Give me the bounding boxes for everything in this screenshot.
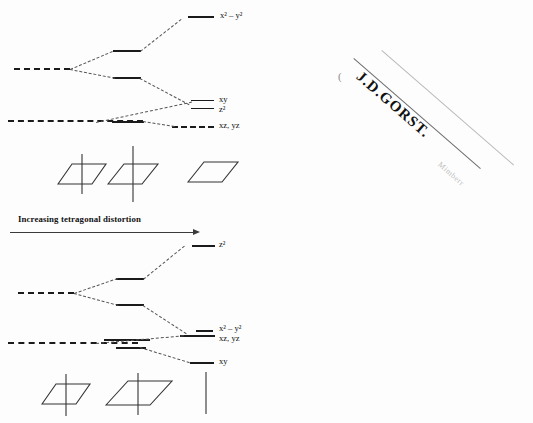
geometry-icon-square-planar: [180, 148, 242, 192]
bottom-splitting-diagram: z² x² – y² xz, yz xy: [0, 235, 300, 375]
level-t2g-mid-top: [112, 121, 144, 123]
level-z2-bottom: [192, 245, 215, 247]
label-xzyz-top: xz, yz: [219, 121, 240, 130]
level-t2g-free-bottom: [8, 342, 138, 344]
level-xy-bottom: [190, 362, 214, 364]
stamp-scrawl-text: Mimberr: [436, 160, 466, 188]
distortion-arrow-head: [193, 229, 200, 235]
tie-eg-up-final-bottom: [143, 246, 185, 280]
level-xzyz-bottom: [180, 335, 215, 337]
tie-eg-down-bottom: [74, 293, 119, 306]
label-xy-bottom: xy: [219, 357, 228, 366]
figure-canvas: x² – y² xy z² xz, yz Increasing tetragon…: [0, 0, 533, 423]
stamp-paren: (: [338, 70, 342, 82]
tie-eg-down-final-bottom: [142, 305, 186, 334]
level-eg-upper-mid-top: [113, 50, 141, 52]
geometry-icon-linear: [196, 370, 216, 416]
label-xzyz-bottom: xz, yz: [219, 334, 240, 343]
label-xy-top: xy: [219, 95, 228, 104]
geometry-icon-compressed-octahedron-wide: [100, 369, 178, 421]
tie-t2g-to-xy-bottom: [140, 347, 190, 363]
level-xzyz-top: [172, 126, 214, 128]
tie-t2g-to-xy-top: [96, 102, 192, 123]
distortion-arrow-line: [10, 232, 195, 233]
label-z2-bottom: z²: [219, 240, 225, 249]
level-x2y2-bottom: [196, 330, 213, 332]
tie-eg-up-top: [70, 51, 113, 70]
top-splitting-diagram: x² – y² xy z² xz, yz: [0, 0, 300, 145]
level-z2-top: [191, 108, 214, 109]
label-z2-top: z²: [219, 105, 225, 114]
tie-eg-down-final-top: [140, 78, 190, 105]
level-eg-lower-mid-top: [113, 77, 141, 79]
distortion-axis-label: Increasing tetragonal distortion: [18, 214, 141, 224]
geometry-icon-compressed-octahedron: [36, 370, 98, 420]
level-x2y2-top: [188, 16, 214, 18]
ownership-stamp: ( J.D.GORST. Mimberr: [330, 28, 530, 218]
tie-eg-up-final-top: [140, 19, 182, 52]
tie-t2g-to-xzyz-top: [143, 121, 175, 127]
stamp-signature-text: J.D.GORST.: [353, 68, 434, 141]
label-x2y2-bottom: x² – y²: [219, 324, 241, 333]
geometry-row-bottom: [0, 370, 300, 423]
tie-eg-up-bottom: [74, 278, 118, 294]
level-eg-lower-mid-bottom: [116, 304, 144, 306]
geometry-row-top: [0, 148, 300, 198]
geometry-icon-tetragonal-elongated: [100, 142, 166, 204]
tie-eg-down-top: [70, 69, 115, 79]
level-eg-free-top: [14, 68, 70, 70]
level-eg-free-bottom: [18, 292, 74, 294]
label-x2y2-top: x² – y²: [220, 11, 242, 20]
level-eg-upper-mid-bottom: [116, 278, 144, 280]
level-xy-top: [191, 100, 214, 101]
